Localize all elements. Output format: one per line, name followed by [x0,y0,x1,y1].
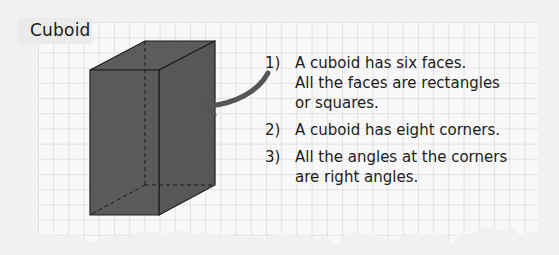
fact-text: A cuboid has six faces. [295,53,500,73]
fact-text: All the angles at the corners [295,147,507,167]
fact-number: 1) [265,53,295,113]
fact-item: 3) All the angles at the corners are rig… [265,147,535,187]
fact-text: are right angles. [295,167,507,187]
fact-text: A cuboid has eight corners. [295,120,500,140]
fact-item: 2) A cuboid has eight corners. [265,120,535,140]
page: Cuboid 1) A cuboid has six faces. All th… [0,0,559,255]
cuboid-right-face [159,41,215,215]
facts-list: 1) A cuboid has six faces. All the faces… [265,53,535,194]
fact-item: 1) A cuboid has six faces. All the faces… [265,53,535,113]
cuboid-front-face [90,70,159,215]
fact-number: 2) [265,120,295,140]
fact-text: or squares. [295,93,500,113]
fact-number: 3) [265,147,295,187]
fact-text: All the faces are rectangles [295,73,500,93]
